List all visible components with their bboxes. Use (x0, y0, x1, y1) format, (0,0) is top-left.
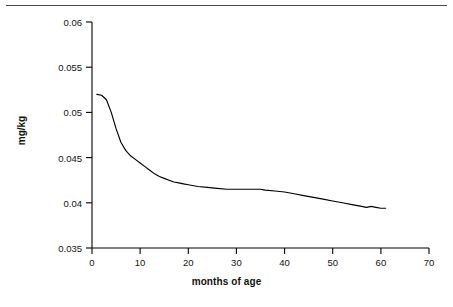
x-tick-label: 30 (231, 257, 242, 268)
x-tick-marks (92, 248, 429, 254)
x-tick-label: 20 (183, 257, 194, 268)
x-tick-label: 10 (135, 257, 146, 268)
y-tick-marks (86, 22, 92, 248)
y-tick-label: 0.055 (32, 62, 82, 73)
line-chart-figure: 0.035 0.04 0.045 0.05 0.055 0.06 0 10 20… (0, 0, 453, 307)
y-tick-label: 0.045 (32, 152, 82, 163)
y-axis-title: mg/kg (16, 101, 27, 161)
chart-page: 0.035 0.04 0.045 0.05 0.055 0.06 0 10 20… (0, 0, 453, 307)
x-tick-label: 60 (376, 257, 387, 268)
x-tick-label: 0 (89, 257, 94, 268)
data-series-line (97, 94, 386, 208)
y-tick-label: 0.035 (32, 243, 82, 254)
x-tick-label: 70 (424, 257, 435, 268)
y-tick-label: 0.04 (32, 197, 82, 208)
x-tick-label: 50 (327, 257, 338, 268)
axis-lines (92, 22, 429, 248)
x-axis-title: months of age (0, 276, 453, 287)
x-tick-label: 40 (279, 257, 290, 268)
y-tick-label: 0.06 (32, 17, 82, 28)
y-tick-label: 0.05 (32, 107, 82, 118)
